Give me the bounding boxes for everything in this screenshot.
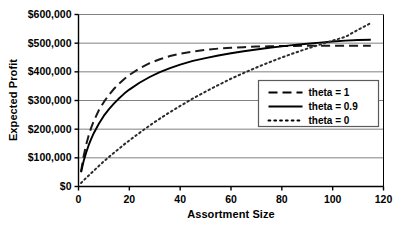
y-tick-label: $600,000 xyxy=(28,8,72,20)
x-tick-label: 40 xyxy=(174,193,186,205)
legend-label: theta = 0.9 xyxy=(309,101,359,112)
x-axis-title: Assortment Size xyxy=(187,208,275,220)
legend-label: theta = 0 xyxy=(309,115,350,126)
legend-label: theta = 1 xyxy=(309,87,350,98)
y-tick-label: $0 xyxy=(60,180,72,192)
x-tick-label: 80 xyxy=(276,193,288,205)
y-tick-label: $300,000 xyxy=(28,94,72,106)
chart-y-axis xyxy=(75,15,79,187)
expected-profit-line-chart: $0$100,000$200,000$300,000$400,000$500,0… xyxy=(0,0,403,225)
y-tick-label: $400,000 xyxy=(28,65,72,77)
y-tick-label: $100,000 xyxy=(28,151,72,163)
y-axis-title: Expected Profit xyxy=(7,59,19,141)
chart-legend: theta = 1theta = 0.9theta = 0 xyxy=(259,81,379,127)
x-tick-label: 100 xyxy=(324,193,342,205)
chart-container: $0$100,000$200,000$300,000$400,000$500,0… xyxy=(0,0,403,225)
x-tick-label: 0 xyxy=(76,193,82,205)
x-tick-label: 120 xyxy=(375,193,393,205)
x-tick-label: 60 xyxy=(225,193,237,205)
y-tick-label: $200,000 xyxy=(28,123,72,135)
y-tick-label: $500,000 xyxy=(28,37,72,49)
chart-y-tick-labels: $0$100,000$200,000$300,000$400,000$500,0… xyxy=(28,8,72,192)
chart-x-tick-labels: 020406080100120 xyxy=(76,193,393,205)
x-tick-label: 20 xyxy=(123,193,135,205)
